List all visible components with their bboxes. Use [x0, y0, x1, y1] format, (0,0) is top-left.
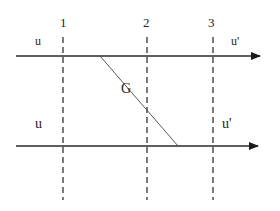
section-label-2: 2	[143, 15, 150, 30]
flow-diagram: 1 2 3 u u' u u' G	[0, 0, 280, 211]
bottom-inlet-label: u	[35, 116, 42, 131]
section-label-3: 3	[208, 15, 215, 30]
top-inlet-label: u	[35, 34, 41, 48]
diagonal-g-line	[100, 56, 178, 146]
top-outlet-label: u'	[231, 34, 239, 48]
bottom-outlet-label: u'	[222, 116, 232, 131]
section-label-1: 1	[60, 15, 67, 30]
diagonal-g-label: G	[121, 81, 131, 96]
